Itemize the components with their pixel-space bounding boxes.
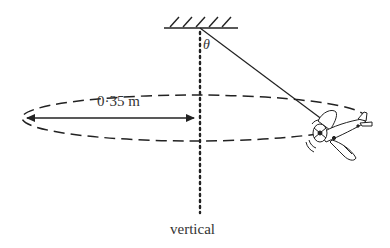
conical-pendulum-diagram: [0, 0, 390, 248]
ceiling-support: [164, 17, 238, 28]
airplane-icon: [306, 110, 372, 160]
angle-theta-label: θ: [203, 37, 210, 53]
string: [200, 28, 331, 126]
vertical-axis-label: vertical: [170, 221, 215, 238]
radius-label: 0·35 m: [97, 93, 140, 110]
